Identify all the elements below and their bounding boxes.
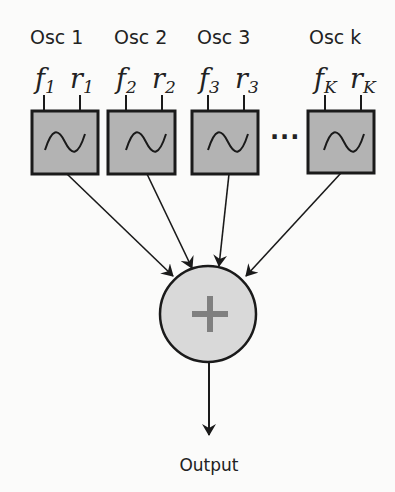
osc-label: Osc 1: [30, 26, 83, 48]
osc-label: Osc k: [309, 26, 361, 48]
rate-param: r3: [235, 63, 259, 97]
osc-label: Osc 2: [114, 26, 167, 48]
connection-arrows: [67, 173, 341, 276]
arrow-icon: [246, 173, 341, 276]
frequency-param: f1: [33, 63, 56, 97]
oscillator-2: Osc 2 f2 r2: [108, 26, 176, 174]
oscillator-box: [308, 111, 374, 173]
sum-node: [160, 266, 256, 362]
oscillator-box: [108, 111, 175, 174]
oscillator-3: Osc 3 f3 r3: [192, 26, 259, 174]
oscillator-1: Osc 1 f1 r1: [30, 26, 98, 174]
arrow-icon: [67, 174, 173, 276]
arrow-icon: [219, 174, 229, 266]
frequency-param: fK: [312, 63, 338, 97]
osc-label: Osc 3: [197, 26, 250, 48]
oscillator-box: [192, 111, 258, 174]
rate-param: r1: [70, 63, 94, 97]
frequency-param: f3: [197, 63, 220, 97]
frequency-param: f2: [114, 63, 137, 97]
oscillator-sum-diagram: Osc 1 f1 r1 Osc 2 f2 r2 Osc 3 f3 r3 ··· …: [0, 0, 395, 492]
output-label: Output: [179, 455, 238, 475]
oscillator-k: Osc k fK rK: [308, 26, 377, 173]
ellipsis: ···: [270, 123, 300, 151]
rate-param: rK: [350, 63, 377, 97]
rate-param: r2: [152, 63, 176, 97]
arrow-icon: [147, 174, 192, 268]
